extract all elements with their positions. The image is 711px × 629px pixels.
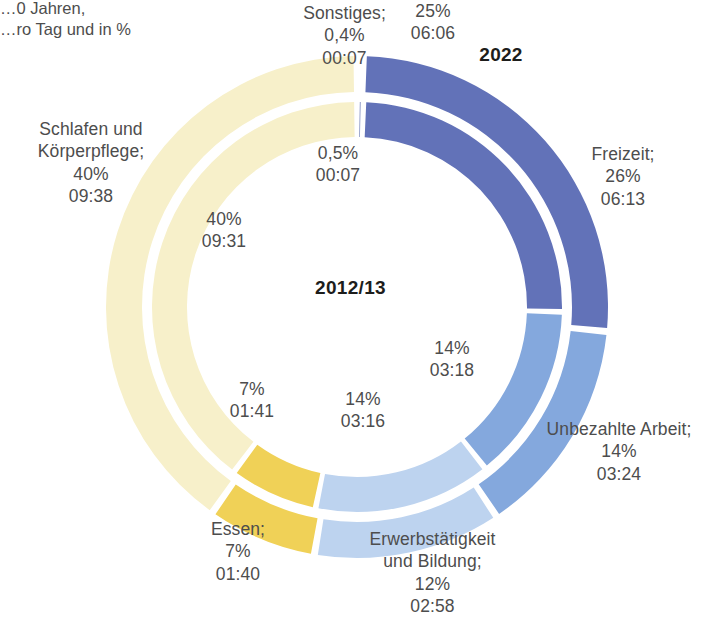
inner-value-sonstiges: 0,5% 00:07 — [292, 142, 384, 187]
inner-value-erwerbstaetigkeit: 14% 03:16 — [317, 388, 409, 433]
callout-erwerbstaetigkeit-und-bildung: Erwerbstätigkeit und Bildung; 12% 02:58 — [330, 528, 535, 618]
inner-value-essen: 7% 01:41 — [206, 378, 298, 423]
donut-chart: …0 Jahren, …ro Tag und in % 2022 2012/13… — [0, 0, 711, 629]
callout-schlafen-und-koerperpflege: Schlafen und Körperpflege; 40% 09:38 — [2, 118, 180, 208]
ring-label-2022: 2022 — [441, 44, 561, 66]
ring-label-2012-13: 2012/13 — [273, 277, 428, 299]
inner-value-freizeit: 25% 06:06 — [387, 0, 479, 45]
callout-essen: Essen; 7% 01:40 — [173, 518, 303, 585]
callout-unbezahlte-arbeit: Unbezahlte Arbeit; 14% 03:24 — [527, 418, 711, 485]
inner-value-unbezahlte-arbeit: 14% 03:18 — [406, 337, 498, 382]
callout-freizeit: Freizeit; 26% 06:13 — [543, 143, 703, 210]
chart-subtitle: …0 Jahren, …ro Tag und in % — [0, 0, 240, 41]
inner-value-schlafen: 40% 09:31 — [178, 208, 270, 253]
donut-slice — [359, 102, 360, 137]
